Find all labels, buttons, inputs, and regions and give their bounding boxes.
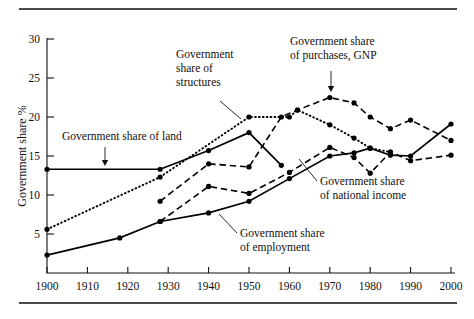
y-tick-label: 10 [29, 189, 41, 201]
annotation-arrow-head [328, 86, 334, 92]
x-axis-tick-labels: 1900191019201930194019501960197019801990… [36, 280, 463, 292]
annotation-text: Government share [240, 227, 325, 239]
x-tick-label: 1970 [318, 280, 341, 292]
annotation-text: structures [176, 76, 221, 88]
x-tick-label: 1910 [76, 280, 99, 292]
data-point [327, 145, 332, 150]
data-point [351, 135, 356, 140]
data-point [448, 138, 453, 143]
data-point [287, 170, 292, 175]
data-point [117, 235, 122, 240]
data-point [388, 126, 393, 131]
data-point [246, 114, 251, 119]
x-tick-label: 1950 [238, 280, 261, 292]
data-point [408, 158, 413, 163]
data-point [246, 130, 251, 135]
annot-national-income: Government shareof national income [299, 159, 406, 201]
data-point [246, 191, 251, 196]
data-point [44, 252, 49, 257]
y-tick-label: 5 [34, 228, 40, 240]
data-point [368, 114, 373, 119]
data-point [287, 114, 292, 119]
data-point [448, 121, 453, 126]
data-point [158, 199, 163, 204]
data-point [246, 164, 251, 169]
data-point [279, 114, 284, 119]
data-point [327, 122, 332, 127]
annotation-text: Government share [290, 35, 375, 47]
data-point [295, 107, 300, 112]
data-point [206, 148, 211, 153]
data-point [287, 176, 292, 181]
annotation-text: of purchases, GNP [290, 49, 377, 62]
y-tick-label: 15 [29, 150, 41, 162]
x-tick-label: 1930 [157, 280, 180, 292]
data-point [206, 161, 211, 166]
data-point [246, 199, 251, 204]
x-tick-label: 2000 [440, 280, 463, 292]
data-point [408, 153, 413, 158]
series-line [160, 98, 451, 202]
data-point [206, 210, 211, 215]
data-point [327, 95, 332, 100]
annotation-text: Government share of land [62, 130, 182, 142]
data-point [158, 174, 163, 179]
data-point [279, 163, 284, 168]
annot-structures: Governmentshare ofstructures [176, 48, 241, 119]
y-tick-label: 30 [29, 33, 41, 45]
axes-group: 1900191019201930194019501960197019801990… [15, 33, 463, 292]
data-point [206, 184, 211, 189]
annotation-leader-line [299, 159, 317, 181]
annotation-leader-line [219, 214, 237, 233]
y-tick-label: 25 [29, 72, 41, 84]
annotation-text: Government share [320, 175, 405, 187]
annotations-group: Government share of landGovernmentshare … [62, 35, 406, 254]
data-point [158, 219, 163, 224]
x-tick-label: 1900 [36, 280, 59, 292]
annotation-text: of national income [320, 189, 406, 201]
annot-land: Government share of land [62, 130, 182, 166]
annot-employment: Government shareof employment [219, 214, 325, 254]
x-tick-label: 1990 [399, 280, 422, 292]
data-point [44, 167, 49, 172]
x-tick-label: 1920 [116, 280, 139, 292]
annotation-text: share of [176, 62, 213, 74]
data-point [351, 155, 356, 160]
figure-container: 1900191019201930194019501960197019801990… [0, 0, 474, 319]
annotation-leader-line [220, 101, 241, 119]
data-point [158, 167, 163, 172]
y-axis-title: Government share % [15, 105, 29, 206]
data-point [351, 150, 356, 155]
data-point [351, 100, 356, 105]
annotation-text: Government [176, 48, 234, 60]
y-tick-label: 20 [29, 111, 41, 123]
x-tick-label: 1960 [278, 280, 301, 292]
data-point [408, 118, 413, 123]
x-tick-label: 1940 [197, 280, 220, 292]
annotation-text: of employment [240, 241, 311, 254]
data-point [448, 153, 453, 158]
data-point [368, 146, 373, 151]
x-axis-ticks [47, 267, 451, 273]
data-point [327, 153, 332, 158]
annot-purchases: Government shareof purchases, GNP [290, 35, 377, 92]
y-axis-ticks [47, 39, 54, 234]
data-point [44, 227, 49, 232]
series-line [160, 147, 451, 221]
x-tick-label: 1980 [359, 280, 382, 292]
y-axis-tick-labels: 51015202530 [29, 33, 41, 240]
chart-svg: 1900191019201930194019501960197019801990… [0, 0, 474, 319]
data-point [388, 153, 393, 158]
annotation-arrow-head [102, 160, 108, 166]
